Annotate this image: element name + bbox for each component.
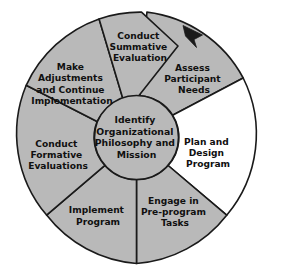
cycle-diagram-canvas: Assess Participant Needs Plan and Design… [0,0,285,278]
program-planning-cycle-diagram: Assess Participant Needs Plan and Design… [0,0,285,278]
hub-circle[interactable] [95,96,179,180]
